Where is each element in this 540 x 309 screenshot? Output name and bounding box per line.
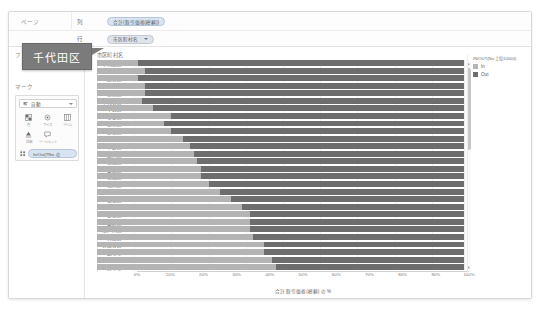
- bar-segment-out[interactable]: [171, 113, 469, 119]
- bar-segment-out[interactable]: [264, 242, 469, 248]
- table-row[interactable]: [97, 158, 469, 164]
- bar-segment-out[interactable]: [242, 204, 469, 210]
- bar-segment-out[interactable]: [250, 211, 469, 217]
- marks-size-button[interactable]: サイズ: [38, 112, 57, 129]
- table-row[interactable]: [97, 83, 469, 89]
- bar-segment-in[interactable]: [97, 143, 190, 149]
- table-row[interactable]: [97, 121, 469, 127]
- table-row[interactable]: [97, 151, 469, 157]
- table-row[interactable]: [97, 90, 469, 96]
- table-row[interactable]: [97, 128, 469, 134]
- rows-shelf-label: 行: [77, 35, 83, 43]
- table-row[interactable]: [97, 105, 469, 111]
- bar-segment-in[interactable]: [97, 98, 142, 104]
- bar-segment-out[interactable]: [138, 60, 469, 66]
- bar-segment-in[interactable]: [97, 211, 250, 217]
- bar-segment-out[interactable]: [201, 166, 469, 172]
- bar-segment-in[interactable]: [97, 173, 201, 179]
- bar-segment-out[interactable]: [194, 151, 469, 157]
- bar-segment-in[interactable]: [97, 151, 194, 157]
- bar-segment-out[interactable]: [231, 196, 469, 202]
- bar-segment-in[interactable]: [97, 121, 164, 127]
- legend-item-out[interactable]: Out: [473, 72, 529, 77]
- bar-segment-out[interactable]: [201, 173, 469, 179]
- legend-item-in[interactable]: In: [473, 64, 529, 69]
- bar-segment-out[interactable]: [250, 219, 469, 225]
- bar-segment-out[interactable]: [253, 234, 469, 240]
- marks-detail-button[interactable]: 詳細: [19, 129, 38, 146]
- table-row[interactable]: [97, 196, 469, 202]
- chevron-down-icon[interactable]: [144, 38, 148, 40]
- bar-segment-in[interactable]: [97, 181, 209, 187]
- bar-segment-in[interactable]: [97, 68, 145, 74]
- bar-segment-out[interactable]: [276, 264, 469, 270]
- table-row[interactable]: [97, 143, 469, 149]
- tooltip-callout[interactable]: 千代田区: [22, 43, 92, 70]
- table-row[interactable]: [97, 211, 469, 217]
- bar-segment-in[interactable]: [97, 128, 171, 134]
- bar-segment-out[interactable]: [272, 257, 469, 263]
- columns-pill[interactable]: 合計(取引価格(総額)): [107, 17, 165, 26]
- bar-segment-in[interactable]: [97, 196, 231, 202]
- marks-type-select[interactable]: 自動: [19, 99, 77, 108]
- bar-segment-out[interactable]: [183, 136, 469, 142]
- bar-segment-in[interactable]: [97, 158, 197, 164]
- table-row[interactable]: [97, 75, 469, 81]
- table-row[interactable]: [97, 98, 469, 104]
- bar-segment-in[interactable]: [97, 189, 220, 195]
- bar-segment-out[interactable]: [171, 128, 469, 134]
- table-row[interactable]: [97, 242, 469, 248]
- bar-segment-out[interactable]: [145, 90, 469, 96]
- bar-segment-in[interactable]: [97, 249, 264, 255]
- bar-segment-in[interactable]: [97, 83, 145, 89]
- bar-segment-in[interactable]: [97, 264, 276, 270]
- table-row[interactable]: [97, 264, 469, 270]
- table-row[interactable]: [97, 181, 469, 187]
- rows-pill[interactable]: 市区町村名: [107, 35, 154, 44]
- bar-segment-in[interactable]: [97, 105, 153, 111]
- bar-segment-in[interactable]: [97, 113, 171, 119]
- bar-segment-in[interactable]: [97, 242, 264, 248]
- bar-segment-in[interactable]: [97, 257, 272, 263]
- bar-segment-in[interactable]: [97, 204, 242, 210]
- table-row[interactable]: [97, 249, 469, 255]
- bar-segment-in[interactable]: [97, 166, 201, 172]
- marks-tooltip-button[interactable]: ツールヒント: [38, 129, 57, 146]
- bar-segment-in[interactable]: [97, 234, 253, 240]
- bar-segment-out[interactable]: [220, 189, 469, 195]
- table-row[interactable]: [97, 219, 469, 225]
- table-row[interactable]: [97, 204, 469, 210]
- table-row[interactable]: [97, 60, 469, 66]
- table-row[interactable]: [97, 166, 469, 172]
- table-row[interactable]: [97, 173, 469, 179]
- bar-segment-out[interactable]: [142, 98, 469, 104]
- marks-label-button[interactable]: ラベル: [58, 112, 77, 129]
- bar-segment-in[interactable]: [97, 75, 138, 81]
- bar-segment-out[interactable]: [153, 105, 469, 111]
- table-row[interactable]: [97, 113, 469, 119]
- legend-title: IN/OUT(No.上位10000): [473, 55, 529, 61]
- chevron-down-icon[interactable]: [69, 103, 73, 105]
- table-row[interactable]: [97, 234, 469, 240]
- marks-color-pill[interactable]: In/Out(TNo. の: [28, 149, 77, 158]
- bar-segment-out[interactable]: [164, 121, 469, 127]
- table-row[interactable]: [97, 68, 469, 74]
- bar-segment-out[interactable]: [145, 68, 469, 74]
- bar-segment-out[interactable]: [250, 226, 469, 232]
- bar-segment-out[interactable]: [197, 158, 469, 164]
- bar-segment-out[interactable]: [190, 143, 469, 149]
- bar-segment-out[interactable]: [264, 249, 469, 255]
- table-row[interactable]: [97, 226, 469, 232]
- table-row[interactable]: [97, 257, 469, 263]
- table-row[interactable]: [97, 189, 469, 195]
- bar-segment-out[interactable]: [145, 83, 469, 89]
- bar-segment-in[interactable]: [97, 90, 145, 96]
- bar-segment-in[interactable]: [97, 226, 250, 232]
- bar-segment-in[interactable]: [97, 136, 183, 142]
- bar-segment-out[interactable]: [138, 75, 469, 81]
- bar-segment-in[interactable]: [97, 60, 138, 66]
- bar-segment-out[interactable]: [209, 181, 469, 187]
- marks-color-button[interactable]: 色: [19, 112, 38, 129]
- table-row[interactable]: [97, 136, 469, 142]
- bar-segment-in[interactable]: [97, 219, 250, 225]
